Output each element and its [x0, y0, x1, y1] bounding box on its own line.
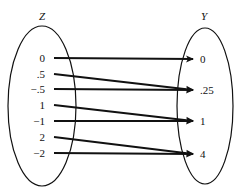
- domain-set-label: Z: [39, 10, 46, 22]
- mapping-diagram: Z Y 0 .5 −.5 1 −1 2 −2 0 .25 1 4: [0, 0, 243, 194]
- domain-element: −2: [33, 147, 45, 159]
- codomain-element: 1: [200, 115, 206, 127]
- mapping-arrow: [54, 137, 193, 154]
- domain-element: −.5: [31, 83, 46, 95]
- domain-element: 2: [40, 131, 46, 143]
- codomain-element: 4: [200, 148, 206, 160]
- mapping-arrow: [54, 58, 193, 59]
- domain-element: 0: [40, 52, 46, 64]
- domain-element: −1: [33, 115, 45, 127]
- mapping-arrow: [54, 89, 193, 90]
- codomain-set-ellipse: [177, 28, 233, 184]
- mapping-arrow: [54, 105, 193, 121]
- codomain-element: .25: [200, 84, 214, 96]
- mapping-arrow: [54, 153, 193, 154]
- domain-element: 1: [40, 99, 46, 111]
- codomain-set-label: Y: [201, 10, 209, 22]
- domain-element: .5: [37, 68, 46, 80]
- codomain-element: 0: [200, 53, 206, 65]
